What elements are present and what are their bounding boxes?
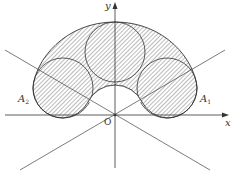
point-label-a1: A1 — [199, 93, 211, 105]
y-axis-arrow-icon — [113, 2, 118, 9]
x-axis-label: x — [225, 117, 231, 128]
y-axis-label: y — [104, 0, 111, 11]
point-label-a2: A2 — [17, 93, 29, 105]
diagram-canvas: x y O A2 A1 — [0, 0, 235, 175]
origin-point — [114, 114, 117, 117]
origin-label: O — [104, 117, 111, 127]
coordinate-diagram: x y O A2 A1 — [0, 0, 235, 175]
